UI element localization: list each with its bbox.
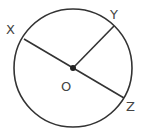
radius-oy xyxy=(73,26,114,68)
circle-diagram: X Y O Z xyxy=(0,0,144,135)
label-y: Y xyxy=(109,7,118,22)
label-o: O xyxy=(61,79,71,94)
label-x: X xyxy=(6,22,15,37)
label-z: Z xyxy=(126,99,135,114)
center-point xyxy=(70,65,76,71)
